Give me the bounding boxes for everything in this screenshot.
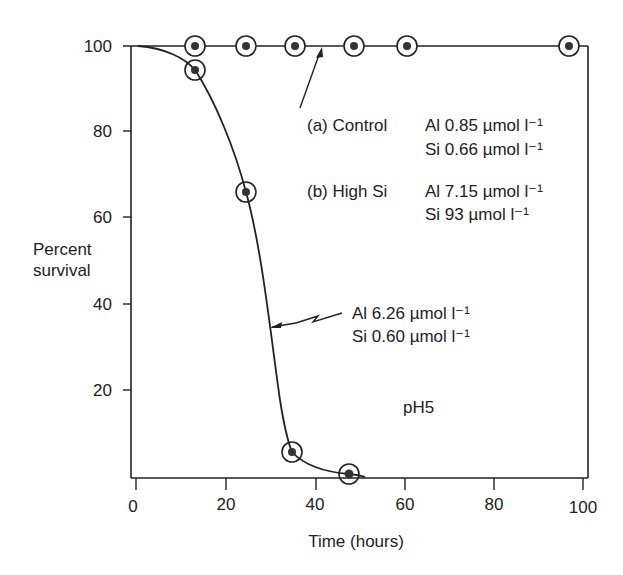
ph-label: pH5 [403,398,434,417]
data-point [236,182,256,202]
curve-annotation-al: Al 6.26 µmol l⁻¹ [352,304,470,323]
y-axis-title-line2: survival [33,261,91,280]
curve-annotation-si: Si 0.60 µmol l⁻¹ [352,327,470,346]
y-tick-label: 60 [93,208,112,227]
x-tick-label: 60 [396,495,415,514]
legend-high-si-si: Si 93 µmol l⁻¹ [425,205,529,224]
plot-frame [123,46,588,478]
legend-control: (a) Control Al 0.85 µmol l⁻¹ Si 0.66 µmo… [307,116,543,159]
x-tick-label: 80 [485,495,504,514]
data-point [344,36,364,56]
legend-control-al: Al 0.85 µmol l⁻¹ [425,116,543,135]
legend-control-name: (a) Control [307,116,387,135]
survival-curve-al [138,46,365,477]
y-tick-label: 20 [93,381,112,400]
legend-high-si-al: Al 7.15 µmol l⁻¹ [425,182,543,201]
y-tick-label: 100 [84,37,112,56]
x-tick-labels: 0 20 40 60 80 100 [128,495,597,517]
x-axis-title: Time (hours) [308,532,404,551]
data-point [282,442,302,462]
x-tick-label: 20 [217,495,236,514]
data-point [559,36,579,56]
y-axis-title-line1: Percent [33,240,92,259]
curve-arrow-icon [270,313,342,328]
survival-chart: 100 80 60 40 20 0 20 40 60 80 100 Time (… [0,0,623,575]
x-ticks [136,478,583,490]
x-tick-label: 40 [306,495,325,514]
data-point [185,36,205,56]
x-tick-label: 0 [128,497,137,516]
legend-high-si: (b) High Si Al 7.15 µmol l⁻¹ Si 93 µmol … [307,182,543,224]
data-point [397,36,417,56]
x-tick-label: 100 [569,498,597,517]
y-tick-label: 40 [93,295,112,314]
data-point [236,36,256,56]
legend-control-si: Si 0.66 µmol l⁻¹ [425,140,543,159]
legend-high-si-name: (b) High Si [307,182,387,201]
data-point [285,36,305,56]
y-tick-label: 80 [93,122,112,141]
curve-annotation: Al 6.26 µmol l⁻¹ Si 0.60 µmol l⁻¹ [352,304,470,346]
control-arrow-icon [300,47,323,108]
y-tick-labels: 100 80 60 40 20 [84,37,112,400]
y-ticks [123,131,131,390]
data-point [185,60,205,80]
